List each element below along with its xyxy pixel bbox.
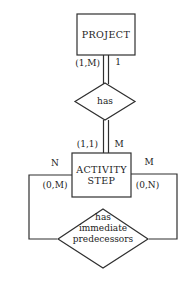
cardinality-activity-pair: (1,1)	[73, 139, 98, 149]
cardinality-recursive-right-role: M	[140, 157, 158, 167]
predecessors-relationship-label: has immediate predecessors	[58, 212, 148, 245]
er-diagram: PROJECT ACTIVITY STEP has has immediate …	[0, 0, 189, 283]
has-activity-connector	[104, 120, 109, 153]
cardinality-project-pair: (1,M)	[71, 58, 100, 68]
project-has-connector	[104, 55, 109, 84]
predecessors-label-line1: has	[58, 212, 148, 223]
predecessors-label-line3: predecessors	[58, 234, 148, 245]
project-entity-label: PROJECT	[77, 14, 135, 55]
activity-step-label-line2: STEP	[88, 175, 116, 187]
cardinality-recursive-right-pair: (0,N)	[132, 180, 163, 190]
predecessors-label-line2: immediate	[58, 223, 148, 234]
cardinality-recursive-left-role: N	[46, 158, 64, 168]
activity-step-label-line1: ACTIVITY	[76, 164, 127, 176]
has-relationship-label: has	[75, 96, 135, 106]
cardinality-activity-single: M	[111, 139, 127, 149]
activity-step-entity-label: ACTIVITY STEP	[72, 153, 131, 197]
cardinality-recursive-left-pair: (0,M)	[40, 180, 70, 190]
cardinality-project-single: 1	[112, 57, 124, 67]
